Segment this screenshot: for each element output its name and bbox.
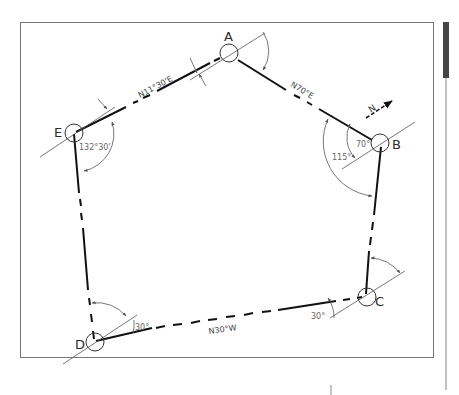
station-D-marker <box>86 333 104 351</box>
station-B-label: B <box>392 137 401 152</box>
line-AB <box>238 60 372 140</box>
station-A-label: A <box>224 29 233 44</box>
bearing-EA-label: N11°30'E <box>137 74 174 100</box>
station-D-label: D <box>75 337 85 352</box>
north-arrow-label: N <box>367 103 378 115</box>
line-DE <box>74 134 94 339</box>
angle-E-label: 132°30' <box>79 143 111 152</box>
scrollbar-thumb[interactable] <box>443 22 449 78</box>
angle-B-interior-label: 115° <box>332 153 351 162</box>
traverse-diagram: N A B C D E N11°30'E N70°E N30°W 132°30'… <box>0 0 459 395</box>
station-A-marker <box>220 44 238 62</box>
scrollbar[interactable] <box>443 22 449 390</box>
angle-C-label: 30° <box>311 312 325 321</box>
angle-D-label: 30° <box>135 323 149 332</box>
drawing-frame <box>21 23 434 358</box>
construction-lines <box>40 33 415 364</box>
angle-B-deflection-label: 70° <box>356 140 370 149</box>
station-E-label: E <box>54 125 62 140</box>
angle-arcs <box>84 32 400 333</box>
bearing-AB-label: N70°E <box>289 80 315 101</box>
station-circles <box>65 44 389 351</box>
north-arrow: N <box>366 101 392 118</box>
line-BC <box>366 147 381 294</box>
station-C-label: C <box>375 294 384 309</box>
bearing-DC-label: N30°W <box>208 323 237 336</box>
